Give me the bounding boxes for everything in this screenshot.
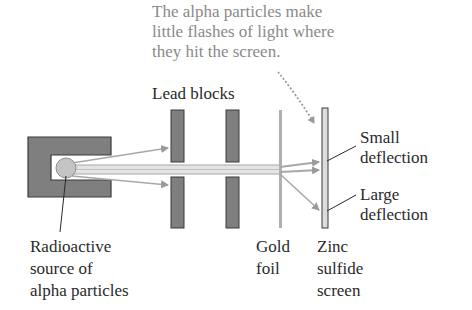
label-screen-1: Zinc — [317, 237, 348, 257]
radioactive-source — [56, 158, 76, 178]
lead-block-2-top — [226, 110, 239, 162]
leader-large-deflection — [327, 195, 356, 211]
lead-block-1-bottom — [171, 177, 184, 228]
label-screen-2: sulfide — [317, 259, 363, 279]
beam-large-deflection — [280, 174, 319, 210]
caption-pointer — [278, 72, 314, 123]
label-small-deflection-1: Small — [360, 128, 400, 148]
caption-line-1: The alpha particles make — [152, 2, 322, 22]
label-large-deflection-2: deflection — [360, 205, 428, 225]
leader-small-deflection — [327, 146, 356, 161]
label-small-deflection-2: deflection — [360, 148, 428, 168]
caption-line-3: they hit the screen. — [152, 42, 280, 62]
caption-line-2: little flashes of light where — [152, 22, 334, 42]
beam-small-deflection-1 — [280, 162, 319, 167]
beam-small-deflection-2 — [280, 170, 319, 172]
label-source-2: source of — [30, 259, 93, 279]
label-gold-foil-2: foil — [256, 259, 280, 279]
label-gold-foil-1: Gold — [256, 237, 290, 257]
gold-foil — [279, 110, 282, 228]
lead-block-2-bottom — [226, 177, 239, 228]
label-lead-blocks: Lead blocks — [152, 84, 235, 104]
zinc-sulfide-screen — [322, 108, 328, 228]
lead-block-1-top — [171, 110, 184, 162]
label-large-deflection-1: Large — [360, 185, 399, 205]
label-screen-3: screen — [317, 281, 360, 301]
label-source-3: alpha particles — [30, 281, 129, 301]
label-source-1: Radioactive — [30, 237, 111, 257]
